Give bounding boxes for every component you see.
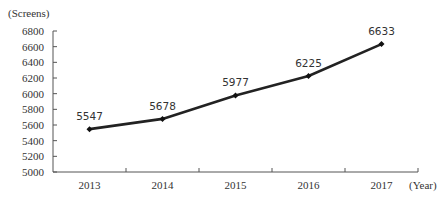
x-tick-label: 2016 — [298, 179, 321, 191]
data-point-label: 6633 — [368, 25, 395, 37]
data-point-label: 5547 — [76, 110, 103, 122]
diamond-marker — [233, 92, 239, 98]
y-tick-label: 6400 — [22, 56, 45, 68]
line-chart: (Screens) 680066006400620060005800560054… — [0, 0, 448, 203]
y-tick-label: 5000 — [22, 166, 45, 178]
x-axis-unit-label: (Year) — [409, 179, 437, 192]
data-point-label: 5678 — [149, 100, 176, 112]
y-axis-ticks: 6800660064006200600058005600540052005000 — [22, 25, 57, 178]
y-tick-label: 5600 — [22, 119, 45, 131]
y-tick-label: 6200 — [22, 72, 45, 84]
x-tick-label: 2017 — [371, 179, 394, 191]
diamond-marker — [160, 116, 166, 122]
data-labels: 55475678597762256633 — [76, 25, 395, 122]
data-point-label: 6225 — [295, 57, 322, 69]
y-tick-label: 5200 — [22, 150, 45, 162]
x-tick-label: 2013 — [79, 179, 102, 191]
diamond-marker — [87, 126, 93, 132]
x-tick-label: 2014 — [152, 179, 175, 191]
x-tick-label: 2015 — [225, 179, 248, 191]
y-tick-label: 5400 — [22, 135, 45, 147]
y-tick-label: 6800 — [22, 25, 45, 37]
y-tick-label: 6000 — [22, 88, 45, 100]
y-tick-label: 6600 — [22, 41, 45, 53]
y-axis-unit-label: (Screens) — [8, 7, 50, 20]
data-point-label: 5977 — [222, 76, 249, 88]
y-tick-label: 5800 — [22, 103, 45, 115]
x-axis-ticks: 20132014201520162017 — [79, 168, 419, 191]
